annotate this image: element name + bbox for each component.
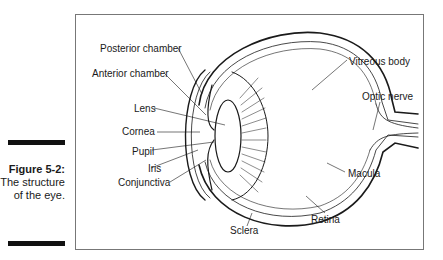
label-pupil: Pupil [132, 146, 154, 157]
label-cornea: Cornea [122, 126, 155, 137]
iris [208, 85, 214, 130]
label-sclera: Sclera [230, 225, 259, 236]
cornea [185, 70, 205, 200]
label-lens: Lens [134, 103, 156, 114]
optic-nerve [376, 104, 418, 128]
ciliary-fibers [240, 78, 266, 192]
label-iris: Iris [148, 163, 161, 174]
label-anterior-chamber: Anterior chamber [92, 68, 169, 79]
label-conjunctiva: Conjunctiva [118, 177, 171, 188]
label-retina: Retina [311, 214, 340, 225]
lens [215, 100, 241, 172]
label-macula: Macula [348, 168, 381, 179]
eye-diagram: Posterior chamber Anterior chamber Lens … [0, 0, 443, 260]
label-vitreous-body: Vitreous body [349, 56, 410, 67]
label-optic-nerve: Optic nerve [362, 91, 414, 102]
label-posterior-chamber: Posterior chamber [100, 43, 182, 54]
